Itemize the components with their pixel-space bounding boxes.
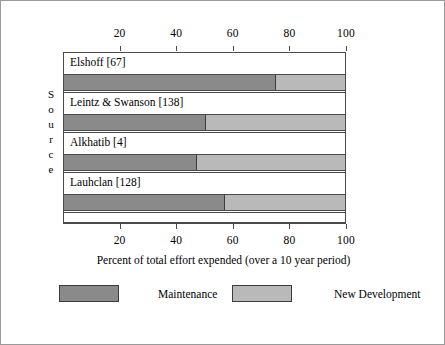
legend-swatch-new-development: [232, 285, 292, 302]
bar-segment-maintenance: [64, 115, 205, 130]
bar-row: Leintz & Swanson [138]: [64, 93, 345, 133]
bar-row-label: Alkhatib [4]: [70, 135, 127, 150]
bar-segment-maintenance: [64, 75, 275, 90]
bottom-tick-mark-60: [233, 224, 234, 229]
bar-row-label: Elshoff [67]: [70, 55, 126, 70]
y-axis-title-letter-2: u: [43, 117, 59, 132]
top-tick-label-100: 100: [337, 27, 355, 40]
top-axis-tick-labels: 20406080100: [63, 27, 346, 43]
top-tick-mark-60: [233, 46, 234, 51]
legend-item-new-development: New Development: [232, 285, 421, 302]
y-axis-title: Source: [43, 87, 59, 177]
legend-label-maintenance: Maintenance: [158, 288, 217, 300]
bottom-tick-label-20: 20: [114, 234, 126, 247]
bottom-axis-tick-labels: 20406080100: [63, 234, 346, 250]
bar-rows: Elshoff [67]Leintz & Swanson [138]Alkhat…: [64, 53, 345, 222]
legend-label-new-development: New Development: [334, 288, 421, 300]
top-tick-mark-80: [289, 46, 290, 51]
row-separator: [64, 212, 345, 213]
top-tick-mark-100: [346, 46, 347, 51]
top-tick-label-60: 60: [227, 27, 239, 40]
chart-legend: Maintenance New Development: [59, 285, 409, 307]
bottom-tick-label-80: 80: [283, 234, 295, 247]
bar-row: Elshoff [67]: [64, 53, 345, 93]
stacked-bar: [64, 154, 345, 171]
legend-swatch-maintenance: [59, 285, 119, 302]
bar-row: Lauhclan [128]: [64, 173, 345, 213]
stacked-bar: [64, 194, 345, 211]
bar-segment-new-development: [224, 195, 345, 210]
top-tick-mark-40: [176, 46, 177, 51]
bar-segment-new-development: [196, 155, 345, 170]
bar-segment-new-development: [275, 75, 345, 90]
bar-segment-maintenance: [64, 195, 224, 210]
bottom-tick-label-60: 60: [227, 234, 239, 247]
top-tick-mark-20: [120, 46, 121, 51]
top-tick-label-80: 80: [283, 27, 295, 40]
bottom-tick-mark-20: [120, 224, 121, 229]
bottom-tick-mark-100: [346, 224, 347, 229]
bottom-tick-mark-40: [176, 224, 177, 229]
bottom-tick-label-100: 100: [337, 234, 355, 247]
x-axis-caption: Percent of total effort expended (over a…: [1, 254, 445, 266]
legend-item-maintenance: Maintenance: [59, 285, 217, 302]
stacked-bar: [64, 74, 345, 91]
y-axis-title-letter-1: o: [43, 102, 59, 117]
bar-row-label: Leintz & Swanson [138]: [70, 95, 183, 110]
top-tick-label-20: 20: [114, 27, 126, 40]
figure-frame: 20406080100 Source Elshoff [67]Leintz & …: [0, 0, 445, 345]
plot-area: Elshoff [67]Leintz & Swanson [138]Alkhat…: [63, 52, 346, 223]
y-axis-title-letter-0: S: [43, 87, 59, 102]
bar-segment-maintenance: [64, 155, 196, 170]
bar-row: Alkhatib [4]: [64, 133, 345, 173]
bottom-tick-label-40: 40: [170, 234, 182, 247]
stacked-bar: [64, 114, 345, 131]
bar-row-label: Lauhclan [128]: [70, 175, 141, 190]
bottom-axis-tick-marks: [63, 224, 346, 230]
y-axis-title-letter-5: e: [43, 162, 59, 177]
top-tick-label-40: 40: [170, 27, 182, 40]
y-axis-title-letter-4: c: [43, 147, 59, 162]
bar-segment-new-development: [205, 115, 346, 130]
bottom-tick-mark-80: [289, 224, 290, 229]
y-axis-title-letter-3: r: [43, 132, 59, 147]
